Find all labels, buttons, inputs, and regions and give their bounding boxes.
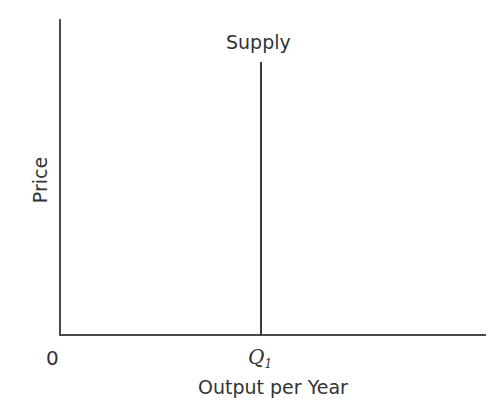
q1-subscript: 1	[264, 357, 272, 371]
q1-tick-label: Q1	[248, 347, 272, 370]
origin-label: 0	[46, 348, 59, 368]
supply-curve-label: Supply	[226, 33, 291, 52]
y-axis-label: Price	[31, 157, 50, 203]
q1-main: Q	[248, 345, 264, 369]
x-axis-label: Output per Year	[198, 378, 348, 397]
